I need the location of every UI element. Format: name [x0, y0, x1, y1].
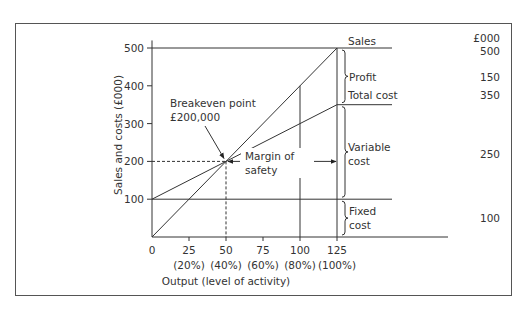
x-tick-label: 0	[149, 244, 156, 256]
variable-cost-label: Variable	[348, 141, 391, 153]
breakeven-arrow	[205, 126, 224, 158]
y-tick-label: 300	[124, 118, 144, 130]
breakeven-label: Breakeven point	[170, 97, 256, 109]
total-cost-value: 350	[480, 89, 500, 101]
sales-line	[152, 48, 337, 237]
sales-label: Sales	[348, 35, 376, 47]
x-tick-label: 100	[290, 244, 310, 256]
y-tick-label: 500	[124, 42, 144, 54]
fixed-cost-label: Fixed	[349, 205, 376, 217]
breakeven-value: £200,000	[170, 111, 220, 123]
y-tick-label: 400	[124, 80, 144, 92]
unit-header: £000	[473, 32, 500, 44]
x-tick-sublabel: (20%)	[173, 259, 205, 271]
x-tick-sublabel: (40%)	[210, 259, 242, 271]
profit-label: Profit	[349, 71, 376, 83]
x-tick-sublabel: (60%)	[247, 259, 279, 271]
variable-cost-value: 250	[480, 148, 500, 160]
breakeven-chart: 100200300400500025(20%)50(40%)75(60%)100…	[0, 0, 529, 311]
x-tick-label: 75	[256, 244, 269, 256]
fixed-cost-brace	[342, 201, 348, 235]
fixed-cost-value: 100	[480, 212, 500, 224]
sales-value: 500	[480, 45, 500, 57]
x-tick-label: 125	[327, 244, 347, 256]
profit-value: 150	[480, 71, 500, 83]
variable-cost-label-2: cost	[348, 155, 370, 167]
x-axis-label: Output (level of activity)	[162, 275, 290, 287]
total-cost-label: Total cost	[347, 89, 398, 101]
x-tick-label: 25	[182, 244, 195, 256]
y-axis-label: Sales and costs (£000)	[112, 75, 124, 195]
x-tick-sublabel: (100%)	[318, 259, 356, 271]
fixed-cost-label-2: cost	[349, 219, 371, 231]
x-tick-sublabel: (80%)	[284, 259, 316, 271]
y-tick-label: 200	[124, 155, 144, 167]
x-tick-label: 50	[219, 244, 232, 256]
margin-of-safety-label-2: safety	[245, 164, 277, 176]
y-tick-label: 100	[124, 193, 144, 205]
margin-of-safety-label: Margin of	[245, 150, 295, 162]
